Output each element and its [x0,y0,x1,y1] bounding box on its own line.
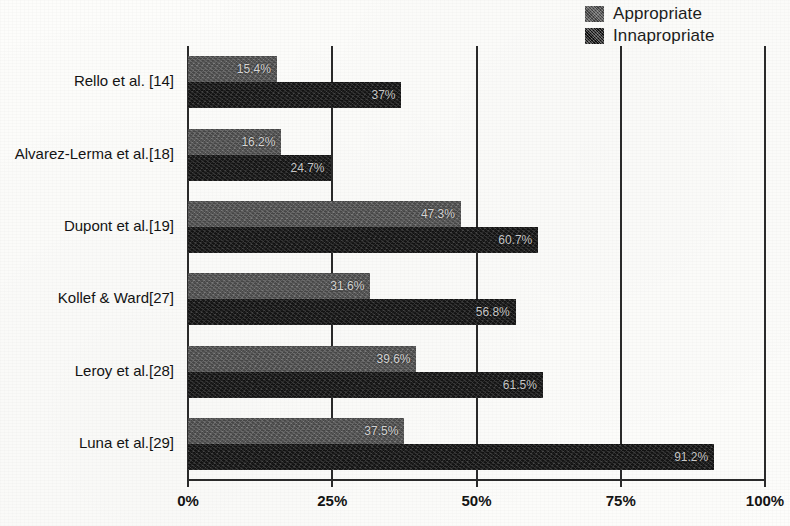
bar-innapropriate-0: 37% [188,82,401,108]
x-tick-mark-0 [187,480,189,487]
chart-legend: Appropriate Innapropriate [585,4,714,48]
x-tick-mark-3 [620,480,622,487]
y-axis-label-0: Rello et al. [14] [0,72,174,89]
bar-value-label: 61.5% [503,378,537,392]
bar-appropriate-2: 47.3% [188,201,461,227]
x-tick-mark-2 [476,480,478,487]
y-axis-label-1: Alvarez-Lerma et al.[18] [0,145,174,162]
gridline-100 [764,46,766,480]
bar-value-label: 37% [371,88,395,102]
plot-area: 15.4%37%16.2%24.7%47.3%60.7%31.6%56.8%39… [188,46,765,480]
y-axis-category-labels: Rello et al. [14]Alvarez-Lerma et al.[18… [0,46,182,480]
y-axis-label-3: Kollef & Ward[27] [0,289,174,306]
bar-value-label: 91.2% [674,450,708,464]
x-tick-label-3: 75% [606,492,636,509]
bar-appropriate-3: 31.6% [188,273,370,299]
bar-appropriate-0: 15.4% [188,56,277,82]
y-axis-label-5: Luna et al.[29] [0,434,174,451]
bar-appropriate-4: 39.6% [188,346,416,372]
x-tick-mark-1 [331,480,333,487]
x-tick-label-0: 0% [177,492,199,509]
legend-swatch-appropriate-icon [585,6,604,22]
legend-item-appropriate: Appropriate [585,4,714,23]
y-axis-label-2: Dupont et al.[19] [0,217,174,234]
bar-appropriate-5: 37.5% [188,418,404,444]
x-axis-tick-labels: 0%25%50%75%100% [188,486,765,516]
legend-swatch-innapropriate-icon [585,28,604,44]
gridline-50 [476,46,478,480]
bar-value-label: 24.7% [290,161,324,175]
bar-innapropriate-5: 91.2% [188,444,714,470]
bar-group: 47.3%60.7% [188,201,765,253]
legend-item-innapropriate: Innapropriate [585,26,714,45]
y-axis-label-4: Leroy et al.[28] [0,362,174,379]
bar-value-label: 31.6% [330,279,364,293]
x-tick-mark-4 [764,480,766,487]
gridline-75 [620,46,622,480]
bar-group: 37.5%91.2% [188,418,765,470]
gridline-25 [331,46,333,480]
bar-value-label: 37.5% [364,424,398,438]
bar-value-label: 60.7% [498,233,532,247]
bar-innapropriate-2: 60.7% [188,227,538,253]
bar-appropriate-1: 16.2% [188,129,281,155]
gridline-0 [187,46,189,480]
x-tick-label-4: 100% [746,492,784,509]
legend-label-appropriate: Appropriate [613,4,702,24]
bar-group: 16.2%24.7% [188,129,765,181]
bar-group: 39.6%61.5% [188,346,765,398]
bar-value-label: 15.4% [237,62,271,76]
bar-group: 15.4%37% [188,56,765,108]
bar-innapropriate-4: 61.5% [188,372,543,398]
bar-value-label: 39.6% [376,352,410,366]
bar-innapropriate-1: 24.7% [188,155,331,181]
bar-value-label: 56.8% [476,305,510,319]
legend-label-innapropriate: Innapropriate [613,26,714,46]
bar-value-label: 16.2% [241,135,275,149]
bar-group: 31.6%56.8% [188,273,765,325]
bar-innapropriate-3: 56.8% [188,299,516,325]
bar-value-label: 47.3% [421,207,455,221]
x-tick-label-1: 25% [317,492,347,509]
x-tick-label-2: 50% [461,492,491,509]
